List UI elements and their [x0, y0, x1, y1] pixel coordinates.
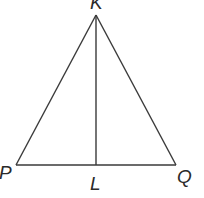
triangle-diagram: K P L Q — [0, 0, 204, 198]
label-p: P — [0, 162, 12, 183]
label-k: K — [90, 0, 104, 13]
segment-kp — [16, 15, 96, 165]
segment-kq — [96, 15, 176, 165]
label-l: L — [90, 173, 101, 194]
label-q: Q — [177, 166, 192, 187]
